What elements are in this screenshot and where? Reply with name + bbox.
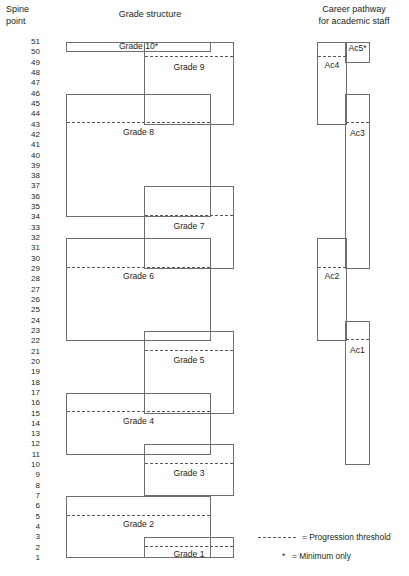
grade-structure-heading: Grade structure [60, 9, 240, 21]
spine-point-49: 49 [31, 59, 40, 67]
spine-point-43: 43 [31, 121, 40, 129]
grade-threshold-grade-2 [67, 515, 210, 516]
spine-point-26: 26 [31, 296, 40, 304]
spine-point-46: 46 [31, 90, 40, 98]
grade-label-grade-3: Grade 3 [144, 468, 234, 478]
legend-threshold-label: = Progression threshold [302, 528, 391, 547]
diagram-canvas: Spine point Grade structure Career pathw… [0, 0, 409, 576]
career-box-ac1[interactable] [345, 321, 370, 465]
career-label-ac2: Ac2 [317, 271, 347, 281]
grade-threshold-grade-7 [145, 215, 233, 216]
spine-point-47: 47 [31, 79, 40, 87]
career-threshold-ac2 [318, 267, 346, 268]
spine-point-13: 13 [31, 430, 40, 438]
career-label-ac4: Ac4 [317, 60, 347, 70]
spine-point-23: 23 [31, 327, 40, 335]
spine-point-39: 39 [31, 162, 40, 170]
spine-point-20: 20 [31, 358, 40, 366]
spine-point-48: 48 [31, 69, 40, 77]
grade-threshold-grade-9 [145, 56, 233, 57]
spine-point-1: 1 [36, 554, 40, 562]
spine-point-scale: 5150494847464544434241403938373635343332… [0, 0, 46, 576]
career-label-ac5: Ac5* [345, 43, 370, 53]
spine-point-27: 27 [31, 286, 40, 294]
spine-point-21: 21 [31, 348, 40, 356]
spine-point-3: 3 [36, 533, 40, 541]
spine-point-35: 35 [31, 203, 40, 211]
spine-point-17: 17 [31, 389, 40, 397]
spine-point-2: 2 [36, 544, 40, 552]
spine-point-37: 37 [31, 182, 40, 190]
spine-point-14: 14 [31, 420, 40, 428]
career-threshold-ac4 [318, 56, 346, 57]
spine-point-44: 44 [31, 110, 40, 118]
career-label-ac3: Ac3 [345, 128, 370, 138]
legend-row-minimum: * = Minimum only [252, 547, 408, 566]
spine-point-19: 19 [31, 368, 40, 376]
grade-box-grade-6[interactable] [66, 238, 211, 341]
career-pathway-heading-line2: for academic staff [300, 16, 408, 28]
spine-point-22: 22 [31, 337, 40, 345]
career-pathway-heading: Career pathway for academic staff [300, 4, 408, 27]
grade-threshold-grade-6 [67, 267, 210, 268]
spine-point-36: 36 [31, 193, 40, 201]
spine-point-7: 7 [36, 492, 40, 500]
legend-minimum-label: = Minimum only [292, 547, 351, 566]
grade-label-grade-9: Grade 9 [144, 62, 234, 72]
spine-point-30: 30 [31, 255, 40, 263]
spine-point-41: 41 [31, 141, 40, 149]
spine-point-32: 32 [31, 234, 40, 242]
legend: = Progression threshold * = Minimum only [252, 528, 408, 566]
grade-label-grade-7: Grade 7 [144, 221, 234, 231]
spine-point-31: 31 [31, 244, 40, 252]
spine-point-34: 34 [31, 213, 40, 221]
spine-point-4: 4 [36, 523, 40, 531]
spine-point-16: 16 [31, 399, 40, 407]
career-box-ac3[interactable] [345, 94, 370, 269]
spine-point-50: 50 [31, 48, 40, 56]
career-box-ac2[interactable] [317, 238, 347, 341]
spine-point-15: 15 [31, 410, 40, 418]
spine-point-51: 51 [31, 38, 40, 46]
spine-point-6: 6 [36, 502, 40, 510]
grade-threshold-grade-1 [145, 546, 233, 547]
asterisk-icon: * [282, 547, 285, 566]
spine-point-40: 40 [31, 152, 40, 160]
spine-point-28: 28 [31, 275, 40, 283]
spine-point-38: 38 [31, 172, 40, 180]
grade-label-grade-5: Grade 5 [144, 355, 234, 365]
spine-point-45: 45 [31, 100, 40, 108]
grade-threshold-grade-5 [145, 350, 233, 351]
grade-label-grade-2: Grade 2 [66, 519, 211, 529]
grade-threshold-grade-3 [145, 463, 233, 464]
grade-label-grade-8: Grade 8 [66, 127, 211, 137]
spine-point-25: 25 [31, 306, 40, 314]
career-pathway-heading-line1: Career pathway [300, 4, 408, 16]
spine-point-11: 11 [32, 451, 40, 459]
grade-threshold-grade-8 [67, 122, 210, 123]
spine-point-5: 5 [36, 513, 40, 521]
spine-point-29: 29 [31, 265, 40, 273]
spine-point-8: 8 [36, 482, 40, 490]
grade-threshold-grade-4 [67, 411, 210, 412]
spine-point-10: 10 [31, 461, 40, 469]
career-box-ac4[interactable] [317, 42, 347, 125]
spine-point-42: 42 [31, 131, 40, 139]
spine-point-12: 12 [31, 440, 40, 448]
grade-label-grade-6: Grade 6 [66, 271, 211, 281]
career-threshold-ac3 [346, 122, 369, 123]
career-label-ac1: Ac1 [345, 345, 370, 355]
grade-label-grade-1: Grade 1 [144, 549, 234, 559]
spine-point-24: 24 [31, 317, 40, 325]
legend-row-threshold: = Progression threshold [252, 528, 408, 547]
spine-point-33: 33 [31, 224, 40, 232]
dashed-line-icon [258, 537, 296, 538]
spine-point-9: 9 [36, 471, 40, 479]
career-threshold-ac1 [346, 339, 369, 340]
grade-label-grade-4: Grade 4 [66, 416, 211, 426]
spine-point-18: 18 [31, 379, 40, 387]
